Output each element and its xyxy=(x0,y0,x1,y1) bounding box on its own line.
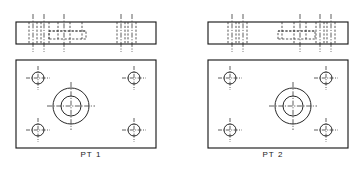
pt-2-plan-view xyxy=(208,60,348,148)
pt-1-views xyxy=(0,0,182,169)
pt-1-edge-view xyxy=(16,14,156,52)
bolt-hole-top-right xyxy=(122,66,146,90)
part-drawing-pt-1: PT 1 xyxy=(0,0,182,169)
drawing-sheet: PT 1 xyxy=(0,0,364,169)
bolt-hole-bottom-left xyxy=(218,118,242,142)
counterbore-feature xyxy=(269,82,317,130)
bolt-hole-bottom-left xyxy=(26,118,50,142)
bolt-hole-bottom-right xyxy=(122,118,146,142)
bolt-hole-top-left xyxy=(218,66,242,90)
pt-2-edge-view xyxy=(208,14,348,52)
counterbore-feature xyxy=(47,82,95,130)
part-caption-pt-1: PT 1 xyxy=(0,150,182,160)
bolt-hole-top-left xyxy=(26,66,50,90)
bolt-hole-top-right xyxy=(314,66,338,90)
bolt-hole-bottom-right xyxy=(314,118,338,142)
part-drawing-pt-2: PT 2 xyxy=(182,0,364,169)
part-caption-pt-2: PT 2 xyxy=(182,150,364,160)
pt-1-plan-view xyxy=(16,60,156,148)
pt-2-views xyxy=(182,0,364,169)
